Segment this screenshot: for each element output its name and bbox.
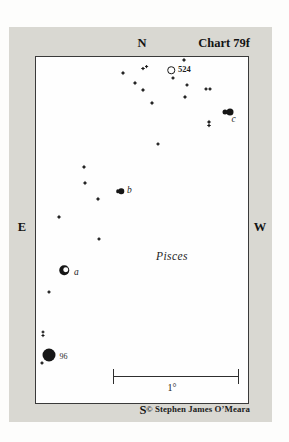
field-star-pair-south [41,334,45,338]
field-star-pair-west [204,87,209,92]
label-c: c [232,115,236,125]
field-star [47,290,52,295]
field-star [97,237,102,242]
field-star [185,83,190,88]
star-a [59,265,69,275]
object-524 [167,66,175,74]
label-b: b [127,186,132,196]
label-Pisces: Pisces [156,251,188,263]
field-star-pair-north [41,330,45,334]
chart-page: N Chart 79f E W S © Stephen James O’Mear… [0,0,289,442]
field-star [83,181,88,186]
star-96 [43,349,56,362]
star-field: 524cba96Pisces [0,0,289,442]
field-star-pair-east [208,87,213,92]
label-96: 96 [60,353,68,361]
star-a-notch [63,268,68,273]
field-star [40,361,45,366]
field-star [96,197,101,202]
label-a: a [74,268,79,278]
field-star [82,165,87,170]
star-b [118,188,124,194]
field-star [57,215,62,220]
field-star [150,101,155,106]
field-star [121,71,126,76]
field-star [183,95,188,100]
field-star [156,142,161,147]
field-star [133,81,138,86]
field-star [182,58,187,63]
field-star-pair-east [145,65,149,69]
field-star [141,88,146,93]
field-star-pair-west [141,66,146,71]
label-524: 524 [178,65,191,74]
field-star-pair-south [207,123,212,128]
star-below-524 [171,76,176,81]
